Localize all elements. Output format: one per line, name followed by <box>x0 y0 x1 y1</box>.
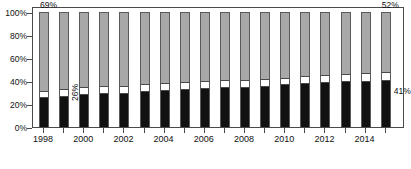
bar-segment-bottom <box>260 86 270 127</box>
x-axis-tick-mark <box>164 128 165 133</box>
y-axis: 0%20%40%60%80%100% <box>0 0 32 136</box>
y-axis-tick-label: 80% <box>10 32 27 41</box>
bar-segment-top <box>99 12 109 86</box>
bar-segment-middle <box>341 74 351 81</box>
bar-column <box>200 12 210 127</box>
bar-segment-bottom <box>320 82 330 127</box>
bar-segment-middle <box>200 81 210 88</box>
bar-segment-top <box>200 12 210 81</box>
bar-segment-top <box>320 12 330 75</box>
bar-segment-top <box>300 12 310 76</box>
bar-segment-bottom <box>300 83 310 127</box>
bar-column <box>300 12 310 127</box>
x-axis-tick-mark <box>264 128 265 133</box>
bar-segment-bottom <box>381 80 391 127</box>
data-label-top-segment: 52% <box>382 1 399 10</box>
bar-column <box>260 12 270 127</box>
x-axis-tick-mark <box>43 128 44 133</box>
bar-segment-bottom <box>240 87 250 127</box>
x-axis-tick-label: 2008 <box>224 135 264 144</box>
x-axis-tick-label: 2000 <box>63 135 103 144</box>
bar-column <box>341 12 351 127</box>
bar-segment-middle <box>39 91 49 97</box>
y-axis-tick-label: 0% <box>15 124 27 133</box>
x-axis-tick-mark <box>83 128 84 133</box>
bar-column <box>361 12 371 127</box>
x-axis-tick-mark <box>324 128 325 133</box>
y-axis-tick-label: 100% <box>5 9 27 18</box>
bar-segment-bottom <box>180 89 190 127</box>
bar-segment-middle <box>260 79 270 86</box>
bar-segment-top <box>381 12 391 72</box>
x-axis-tick-mark <box>123 128 124 133</box>
data-label-bottom-segment-rotated: 26% <box>71 84 80 101</box>
x-axis-tick-mark <box>63 128 64 133</box>
bar-segment-middle <box>240 80 250 87</box>
bar-segment-middle <box>320 75 330 82</box>
bar-segment-bottom <box>160 90 170 127</box>
bar-segment-top <box>341 12 351 74</box>
bar-segment-bottom <box>140 91 150 127</box>
bar-column <box>79 12 89 127</box>
bar-column <box>381 12 391 127</box>
x-axis-tick-mark <box>345 128 346 133</box>
bar-segment-middle <box>220 80 230 87</box>
bar-column <box>39 12 49 127</box>
bar-column <box>59 12 69 127</box>
x-axis-tick-mark <box>284 128 285 133</box>
bar-column <box>180 12 190 127</box>
plot-area <box>32 7 404 128</box>
bar-segment-middle <box>280 78 290 85</box>
x-axis-tick-label: 2006 <box>184 135 224 144</box>
bar-column <box>220 12 230 127</box>
bar-column <box>240 12 250 127</box>
y-axis-tick-label: 40% <box>10 78 27 87</box>
bar-segment-bottom <box>119 93 129 128</box>
bar-segment-top <box>180 12 190 82</box>
bar-segment-middle <box>160 83 170 90</box>
x-axis-tick-label: 2002 <box>103 135 143 144</box>
bar-segment-top <box>79 12 89 87</box>
x-axis-tick-label: 2014 <box>345 135 385 144</box>
bar-segment-bottom <box>59 96 69 127</box>
data-label-top-segment: 69% <box>40 1 57 10</box>
bar-segment-middle <box>59 89 69 96</box>
x-axis-tick-label: 2010 <box>264 135 304 144</box>
y-axis-tick-label: 60% <box>10 55 27 64</box>
stacked-bar-chart: 0%20%40%60%80%100% 199820002002200420062… <box>0 0 411 169</box>
bar-column <box>119 12 129 127</box>
bar-segment-bottom <box>280 84 290 127</box>
x-axis-tick-mark <box>365 128 366 133</box>
bar-segment-middle <box>381 72 391 80</box>
x-axis-tick-mark <box>224 128 225 133</box>
bar-segment-top <box>140 12 150 84</box>
bar-segment-middle <box>99 86 109 93</box>
bar-column <box>99 12 109 127</box>
x-axis-tick-mark <box>103 128 104 133</box>
x-axis: 199820002002200420062008201020122014 <box>32 128 404 169</box>
bar-segment-top <box>240 12 250 80</box>
bar-segment-top <box>280 12 290 78</box>
x-axis-tick-mark <box>184 128 185 133</box>
bar-segment-bottom <box>39 97 49 127</box>
bar-column <box>160 12 170 127</box>
bar-segment-bottom <box>99 93 109 128</box>
x-axis-tick-mark <box>385 128 386 133</box>
x-axis-tick-label: 2012 <box>304 135 344 144</box>
bar-segment-bottom <box>341 81 351 127</box>
bar-segment-middle <box>119 86 129 93</box>
bar-segment-top <box>361 12 371 73</box>
bar-segment-middle <box>180 82 190 89</box>
x-axis-tick-mark <box>144 128 145 133</box>
data-label-bottom-segment: 41% <box>394 87 411 96</box>
bar-segment-top <box>220 12 230 80</box>
bar-segment-bottom <box>200 88 210 127</box>
bar-segment-bottom <box>79 94 89 127</box>
bar-column <box>140 12 150 127</box>
bar-segment-bottom <box>361 81 371 127</box>
bar-segment-top <box>119 12 129 86</box>
bar-segment-middle <box>140 84 150 91</box>
y-axis-tick-label: 20% <box>10 101 27 110</box>
bar-column <box>280 12 290 127</box>
bar-column <box>320 12 330 127</box>
